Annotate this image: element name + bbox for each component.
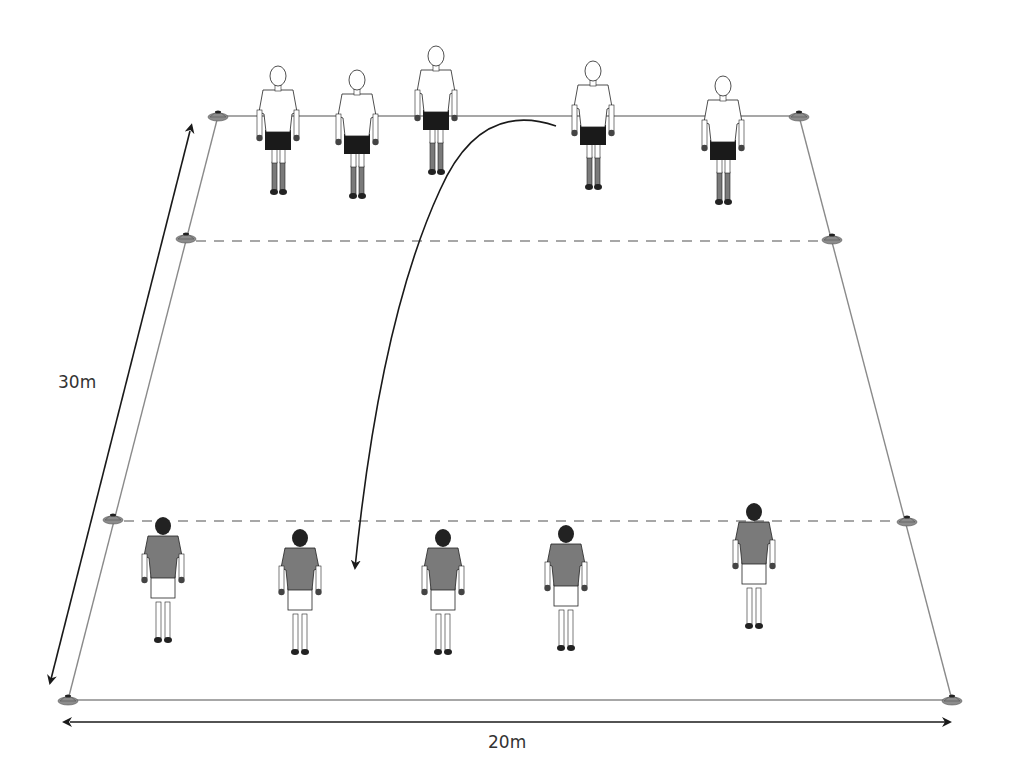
- zone-lines: [124, 241, 897, 521]
- field-canvas: [0, 0, 1009, 784]
- width-label: 20m: [488, 732, 526, 752]
- length-dimension-arrow: [50, 131, 190, 683]
- ball-path-arrow: [355, 120, 556, 568]
- team-bottom: [141, 503, 775, 655]
- player-icon: [732, 503, 775, 629]
- player-icon: [335, 70, 378, 199]
- player-icon: [414, 46, 457, 175]
- field-boundary: [68, 116, 952, 700]
- cone-icon: [176, 233, 196, 244]
- cone-icon: [789, 111, 809, 122]
- player-icon: [701, 76, 744, 205]
- drill-diagram: 30m 20m: [0, 0, 1009, 784]
- team-top: [256, 46, 744, 205]
- player-icon: [278, 529, 321, 655]
- player-icon: [571, 61, 614, 190]
- cone-icon: [58, 695, 78, 706]
- cone-icon: [822, 234, 842, 245]
- length-label: 30m: [58, 372, 96, 392]
- cones: [58, 111, 962, 706]
- cone-icon: [208, 111, 228, 122]
- player-icon: [141, 517, 184, 643]
- player-icon: [544, 525, 587, 651]
- cone-icon: [897, 516, 917, 527]
- cone-icon: [942, 695, 962, 706]
- player-icon: [256, 66, 299, 195]
- cone-icon: [103, 514, 123, 525]
- player-icon: [421, 529, 464, 655]
